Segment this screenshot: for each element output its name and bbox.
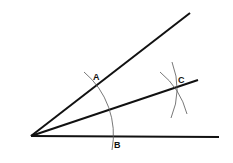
point-a-label: A (93, 72, 100, 82)
point-c-label: C (178, 75, 185, 85)
point-b-label: B (114, 140, 121, 150)
bisector-ray (31, 80, 198, 136)
upper-ray (31, 13, 190, 136)
angle-bisector-diagram: A B C (0, 0, 233, 163)
lower-ray (31, 136, 219, 137)
